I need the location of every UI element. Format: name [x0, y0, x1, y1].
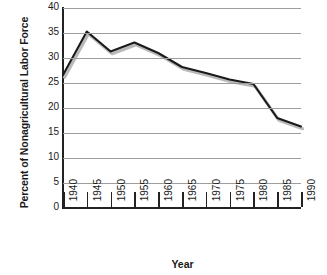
y-axis-tick-label: 10 — [37, 151, 59, 162]
gridline — [63, 133, 301, 134]
gridline — [63, 158, 301, 159]
y-axis-tick-label: 0 — [37, 201, 59, 212]
x-axis-tick-mark — [277, 192, 279, 207]
x-axis-tick-mark — [63, 192, 65, 207]
y-axis-tick-label: 20 — [37, 101, 59, 112]
y-axis-tick-labels: 0510152025303540 — [33, 0, 59, 275]
x-axis-tick-mark — [230, 192, 232, 207]
y-axis-tick-label: 15 — [37, 126, 59, 137]
x-axis-tick-label: 1955 — [139, 179, 150, 213]
x-axis-tick-mark — [206, 192, 208, 207]
y-axis-tick-label: 30 — [37, 51, 59, 62]
x-axis-tick-mark — [301, 192, 303, 207]
x-axis-title: Year — [60, 258, 305, 270]
gridline — [63, 83, 301, 84]
gridline — [63, 33, 301, 34]
x-axis-tick-mark — [253, 192, 255, 207]
x-axis-tick-mark — [134, 192, 136, 207]
y-axis-tick-label: 40 — [37, 1, 59, 12]
gridline — [63, 8, 301, 9]
y-axis-title: Percent of Nonagricultural Labor Force — [16, 5, 32, 220]
series-line-shadow — [65, 34, 303, 129]
y-axis-tick-label: 35 — [37, 26, 59, 37]
x-axis-tick-label: 1945 — [92, 179, 103, 213]
x-axis-tick-label: 1950 — [116, 179, 127, 213]
x-axis-tick-mark — [158, 192, 160, 207]
gridline — [63, 58, 301, 59]
x-axis-tick-mark — [87, 192, 89, 207]
gridline — [63, 108, 301, 109]
x-axis-tick-label: 1975 — [235, 179, 246, 213]
series-line — [63, 32, 301, 127]
x-axis-tick-label: 1960 — [163, 179, 174, 213]
x-axis-tick-label: 1970 — [211, 179, 222, 213]
y-axis-tick-label: 5 — [37, 176, 59, 187]
x-axis-tick-label: 1980 — [258, 179, 269, 213]
x-axis-tick-label: 1990 — [306, 179, 317, 213]
x-axis-tick-label: 1985 — [282, 179, 293, 213]
x-axis-tick-mark — [111, 192, 113, 207]
line-chart-figure: Percent of Nonagricultural Labor Force 0… — [0, 0, 327, 275]
x-axis-tick-label: 1965 — [187, 179, 198, 213]
plot-area — [63, 8, 301, 208]
y-axis-tick-label: 25 — [37, 76, 59, 87]
x-axis-tick-mark — [182, 192, 184, 207]
x-axis-tick-label: 1940 — [68, 179, 79, 213]
